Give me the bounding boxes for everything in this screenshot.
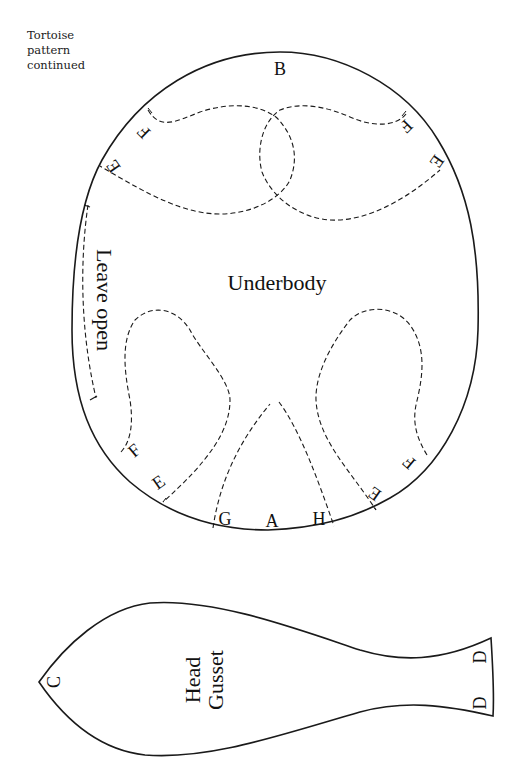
- head-gusset-piece: C Head Gusset D D: [39, 602, 493, 755]
- leave-open-label: Leave open: [92, 249, 117, 351]
- marker-d-top: D: [470, 651, 490, 664]
- underbody-title: Underbody: [228, 270, 327, 295]
- marker-d-bottom: D: [470, 697, 490, 710]
- marker-lower-right-f: F: [399, 452, 420, 474]
- marker-h: H: [313, 509, 326, 529]
- head-gusset-title-line-1: Head: [180, 657, 205, 703]
- marker-upper-right-f: F: [396, 116, 417, 137]
- head-gusset-outline: [39, 602, 493, 755]
- seam-tail-dart-right: [279, 402, 334, 526]
- marker-b: B: [274, 59, 286, 79]
- seam-lower-right: [316, 309, 427, 510]
- marker-upper-right-e: E: [426, 151, 449, 171]
- underbody-piece: B F E F E F E F E G A H Underbody Leave …: [72, 52, 478, 531]
- head-gusset-title-line-2: Gusset: [203, 650, 228, 710]
- marker-c: C: [44, 676, 64, 688]
- seam-upper-right: [260, 106, 440, 220]
- marker-lower-left-e: E: [148, 471, 168, 494]
- marker-g: G: [219, 509, 232, 529]
- marker-upper-left-e: E: [102, 156, 125, 176]
- marker-upper-left-f: F: [133, 122, 154, 143]
- marker-a: A: [266, 511, 279, 531]
- seam-lower-left: [121, 310, 230, 502]
- marker-lower-left-f: F: [124, 440, 145, 462]
- pattern-sheet: B F E F E F E F E G A H Underbody Leave …: [0, 0, 522, 782]
- notch-lower-left-e: [163, 498, 166, 502]
